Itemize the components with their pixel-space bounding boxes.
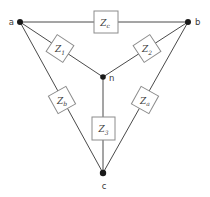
node-dot-n — [100, 74, 106, 80]
node-labels: a b c n — [9, 17, 201, 191]
impedance-label-z1-sub: 1 — [61, 49, 65, 56]
circuit-diagram-canvas: a b c n Zc Z1 Z2 Zb Za Z3 — [0, 0, 210, 197]
node-dot-c — [100, 170, 106, 176]
node-label-c: c — [102, 181, 107, 191]
impedance-label-za-sub: a — [146, 100, 150, 107]
node-label-b: b — [195, 17, 200, 27]
impedance-label-z3-sub: 3 — [105, 129, 109, 136]
wires — [20, 22, 188, 173]
node-label-n: n — [109, 73, 114, 83]
impedance-label-zb-sub: b — [63, 100, 67, 107]
impedance-label-z2-sub: 2 — [147, 49, 152, 56]
node-dot-a — [17, 19, 23, 25]
node-dot-b — [185, 19, 191, 25]
node-dots — [17, 19, 191, 176]
delta-wye-circuit-diagram: a b c n Zc Z1 Z2 Zb Za Z3 — [0, 0, 210, 197]
node-label-a: a — [9, 17, 14, 27]
